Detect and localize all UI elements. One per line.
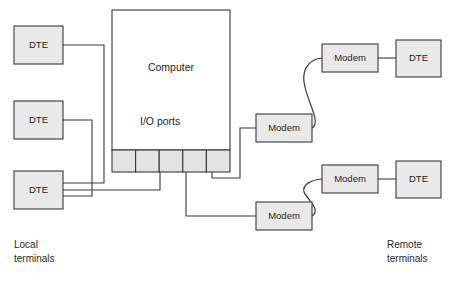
wire-dte3-to-port3 bbox=[63, 172, 160, 190]
network-diagram: Computer I/O ports DTE DTE DTE Modem Mod… bbox=[0, 0, 451, 284]
local-modem-upper-label: Modem bbox=[268, 122, 300, 133]
io-port-1[interactable] bbox=[112, 150, 136, 172]
remote-modem-1-label: Modem bbox=[334, 52, 366, 63]
io-port-5[interactable] bbox=[206, 150, 230, 172]
io-port-2[interactable] bbox=[136, 150, 160, 172]
local-dte-1-label: DTE bbox=[29, 39, 48, 50]
remote-terminals-caption-line2: terminals bbox=[387, 253, 428, 264]
io-port-4[interactable] bbox=[183, 150, 207, 172]
remote-terminals-caption-line1: Remote bbox=[387, 239, 422, 250]
remote-dte-2-label: DTE bbox=[409, 173, 428, 184]
remote-modem-2-label: Modem bbox=[334, 173, 366, 184]
computer-box[interactable] bbox=[112, 10, 230, 150]
wire-port4-to-modem-lower bbox=[186, 172, 256, 216]
local-terminals-caption-line1: Local bbox=[14, 239, 38, 250]
computer-label: Computer bbox=[148, 61, 195, 73]
io-ports-label: I/O ports bbox=[140, 115, 180, 127]
remote-dte-1-label: DTE bbox=[409, 52, 428, 63]
io-port-3[interactable] bbox=[159, 150, 183, 172]
local-dte-2-label: DTE bbox=[29, 114, 48, 125]
diagram-canvas: Computer I/O ports DTE DTE DTE Modem Mod… bbox=[0, 0, 451, 284]
local-dte-3-label: DTE bbox=[29, 184, 48, 195]
local-modem-lower-label: Modem bbox=[268, 210, 300, 221]
local-terminals-caption-line2: terminals bbox=[14, 253, 55, 264]
